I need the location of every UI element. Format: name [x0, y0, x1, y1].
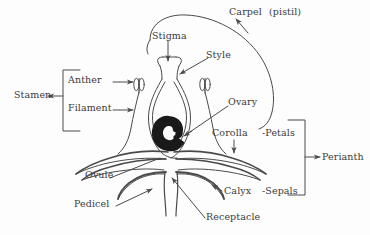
style-leader [180, 58, 208, 74]
label-sepals: -Sepals [262, 186, 298, 196]
corolla-right [174, 151, 266, 180]
label-perianth: Perianth [322, 152, 364, 162]
label-petals: -Petals [262, 128, 295, 138]
label-style: Style [206, 50, 231, 60]
label-stigma: Stigma [152, 31, 187, 41]
calyx-left [118, 172, 166, 199]
receptacle-pedicel [164, 172, 178, 216]
label-ovule: Ovule [85, 170, 113, 180]
stamen-left [118, 78, 144, 154]
ovule-shape [154, 118, 182, 149]
label-receptacle: Receptacle [206, 212, 260, 222]
label-corolla: Corolla [212, 128, 248, 138]
calyx-right [176, 172, 224, 199]
label-filament: Filament [68, 103, 112, 113]
label-calyx: Calyx [224, 186, 251, 196]
label-carpel: Carpel [229, 7, 262, 17]
label-pedicel: Pedicel [74, 199, 109, 209]
label-stamen: Stamen [14, 90, 51, 100]
label-ovary: Ovary [228, 97, 257, 107]
carpel-leader [236, 19, 248, 33]
flower-diagram: Carpel (pistil) Stigma Style Ovary Corol… [0, 0, 370, 235]
label-anther: Anther [68, 75, 102, 85]
label-pistil: (pistil) [269, 7, 301, 17]
